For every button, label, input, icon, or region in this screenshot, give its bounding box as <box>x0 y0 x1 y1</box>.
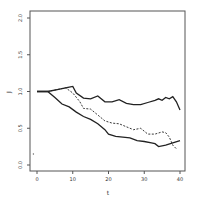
x-tick-label: 20 <box>105 176 111 182</box>
x-tick-label: 30 <box>141 176 147 182</box>
series-upper-solid <box>37 86 180 110</box>
series-group <box>37 86 180 148</box>
y-axis: 0.00.51.01.52.0 <box>17 14 30 169</box>
y-tick-label: 0.5 <box>17 124 23 132</box>
y-axis-label: J <box>5 91 13 94</box>
stray-point <box>33 153 34 154</box>
line-chart: 0.00.51.01.52.0 010203040 J t <box>0 0 197 203</box>
x-axis: 010203040 <box>35 171 183 182</box>
annotations <box>33 153 34 154</box>
y-tick-label: 2.0 <box>17 14 23 22</box>
x-tick-label: 10 <box>70 176 76 182</box>
series-lower-solid <box>37 92 180 147</box>
y-tick-label: 0.0 <box>17 161 23 169</box>
y-tick-label: 1.5 <box>17 51 23 59</box>
x-tick-label: 40 <box>177 176 183 182</box>
x-tick-label: 0 <box>35 176 38 182</box>
series-dashed <box>37 88 176 149</box>
x-axis-label: t <box>107 189 110 196</box>
y-tick-label: 1.0 <box>17 88 23 96</box>
